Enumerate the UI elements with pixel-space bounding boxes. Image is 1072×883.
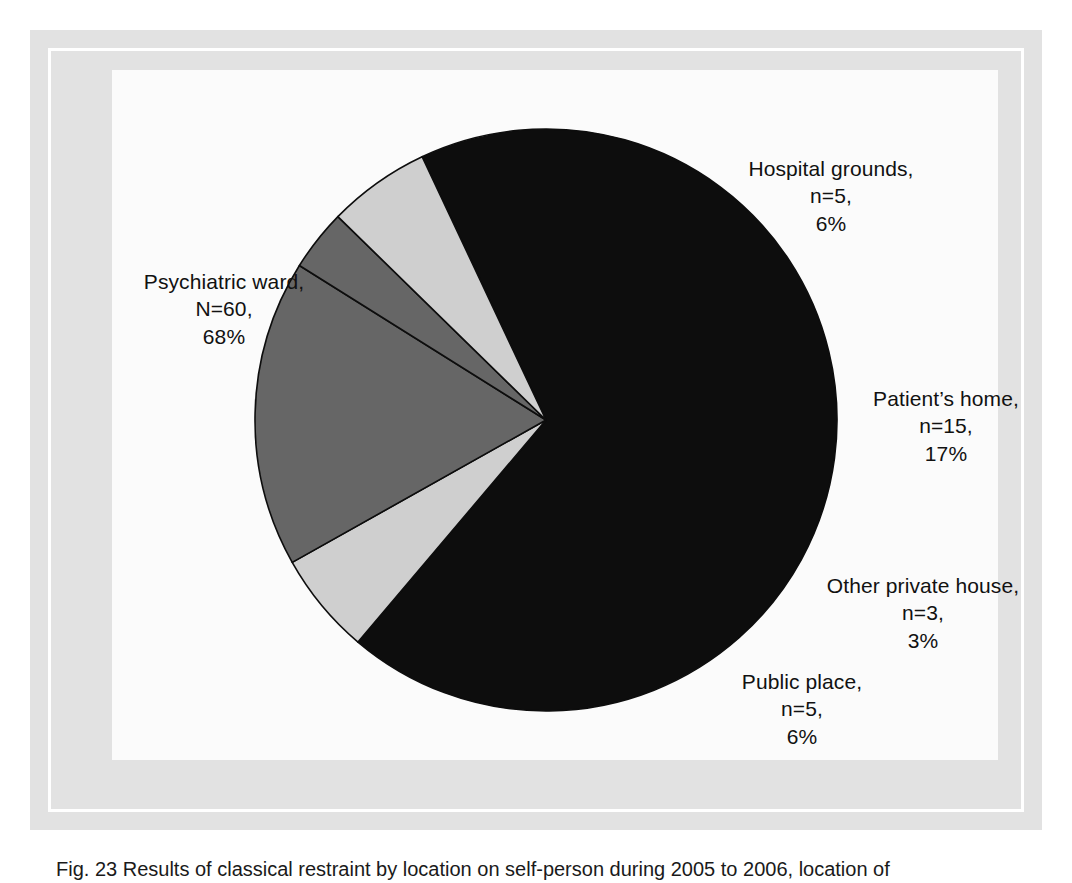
- slice-label-other-private-house: Other private house, n=3, 3%: [800, 572, 1046, 654]
- figure-caption: Fig. 23 Results of classical restraint b…: [56, 856, 1036, 883]
- slice-label-patients-home: Patient’s home, n=15, 17%: [846, 385, 1046, 467]
- slice-label-percent: 17%: [846, 440, 1046, 467]
- slice-label-percent: 6%: [700, 723, 904, 750]
- slice-label-percent: 68%: [118, 323, 330, 350]
- slice-label-hospital-grounds: Hospital grounds, n=5, 6%: [718, 155, 944, 237]
- slice-label-count: N=60,: [118, 295, 330, 322]
- slice-label-count: n=15,: [846, 412, 1046, 439]
- slice-label-count: n=5,: [700, 695, 904, 722]
- slice-label-name: Public place,: [700, 668, 904, 695]
- slice-label-public-place: Public place, n=5, 6%: [700, 668, 904, 750]
- slice-label-name: Other private house,: [800, 572, 1046, 599]
- slice-label-psychiatric-ward: Psychiatric ward, N=60, 68%: [118, 268, 330, 350]
- slice-label-count: n=3,: [800, 599, 1046, 626]
- slice-label-count: n=5,: [718, 182, 944, 209]
- slice-label-name: Psychiatric ward,: [118, 268, 330, 295]
- slice-label-name: Hospital grounds,: [718, 155, 944, 182]
- slice-label-percent: 3%: [800, 627, 1046, 654]
- slice-label-name: Patient’s home,: [846, 385, 1046, 412]
- slice-label-percent: 6%: [718, 210, 944, 237]
